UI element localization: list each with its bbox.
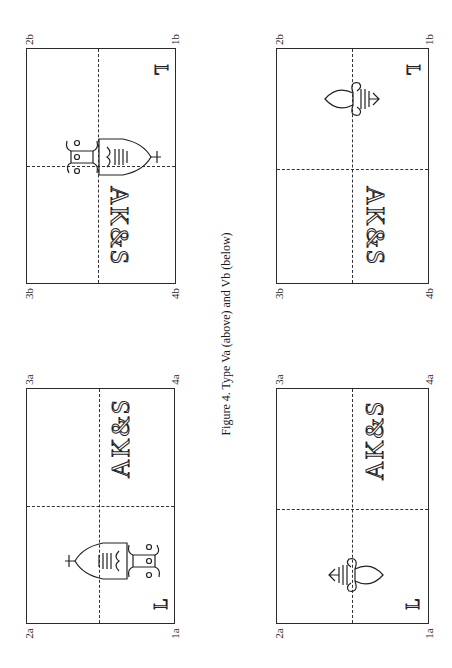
center-horizontal-fold	[27, 506, 174, 507]
sheet-outline: L AK&S	[276, 48, 429, 284]
corner-label-1a: 1a	[170, 628, 181, 638]
countermark-letter: L	[152, 65, 170, 76]
fleur-de-lis-watermark-icon	[323, 79, 387, 119]
watermark-initials: AK&S	[362, 398, 388, 482]
corner-label-1a: 1a	[424, 628, 435, 638]
sheet-outline: L AK&S	[26, 48, 176, 284]
corner-label-4a: 4a	[424, 374, 435, 384]
watermark-initials: AK&S	[108, 396, 134, 480]
corner-label-4b: 4b	[170, 288, 181, 299]
corner-label-1b: 1b	[170, 34, 181, 45]
corner-label-2a: 2a	[274, 628, 285, 638]
corner-label-4a: 4a	[170, 374, 181, 384]
corner-label-1b: 1b	[424, 34, 435, 45]
center-vertical-fold	[99, 389, 100, 623]
corner-label-3a: 3a	[24, 374, 35, 384]
corner-label-3b: 3b	[24, 288, 35, 299]
corner-label-3a: 3a	[274, 374, 285, 384]
watermark-initials: AK&S	[362, 184, 388, 268]
watermark-initials: AK&S	[106, 184, 132, 268]
figure-caption: Figure 4. Type Va (above) and Vb (below)	[220, 214, 232, 454]
fleur-de-lis-watermark-icon	[321, 555, 385, 595]
sheet-outline: AK&S L	[276, 388, 429, 624]
corner-label-2b: 2b	[24, 34, 35, 45]
sheet-outline: AK&S L	[26, 388, 175, 624]
countermark-letter: L	[152, 599, 170, 610]
corner-label-3b: 3b	[274, 288, 285, 299]
corner-label-4b: 4b	[424, 288, 435, 299]
crowned-shield-watermark-icon	[63, 537, 163, 585]
crowned-shield-watermark-icon	[63, 133, 163, 181]
corner-label-2b: 2b	[274, 34, 285, 45]
countermark-letter: L	[404, 599, 422, 610]
corner-label-2a: 2a	[24, 628, 35, 638]
countermark-letter: L	[404, 65, 422, 76]
